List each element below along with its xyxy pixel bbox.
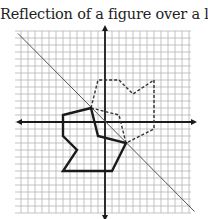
x-axis-arrow-right-icon [191,119,197,125]
axes [16,25,197,219]
coordinate-grid [0,0,208,219]
x-axis-arrow-left-icon [16,119,22,125]
original-figure [63,108,126,171]
y-axis-arrow-up-icon [102,25,108,31]
y-axis-arrow-down-icon [102,215,108,219]
reflected-figure [91,80,154,143]
